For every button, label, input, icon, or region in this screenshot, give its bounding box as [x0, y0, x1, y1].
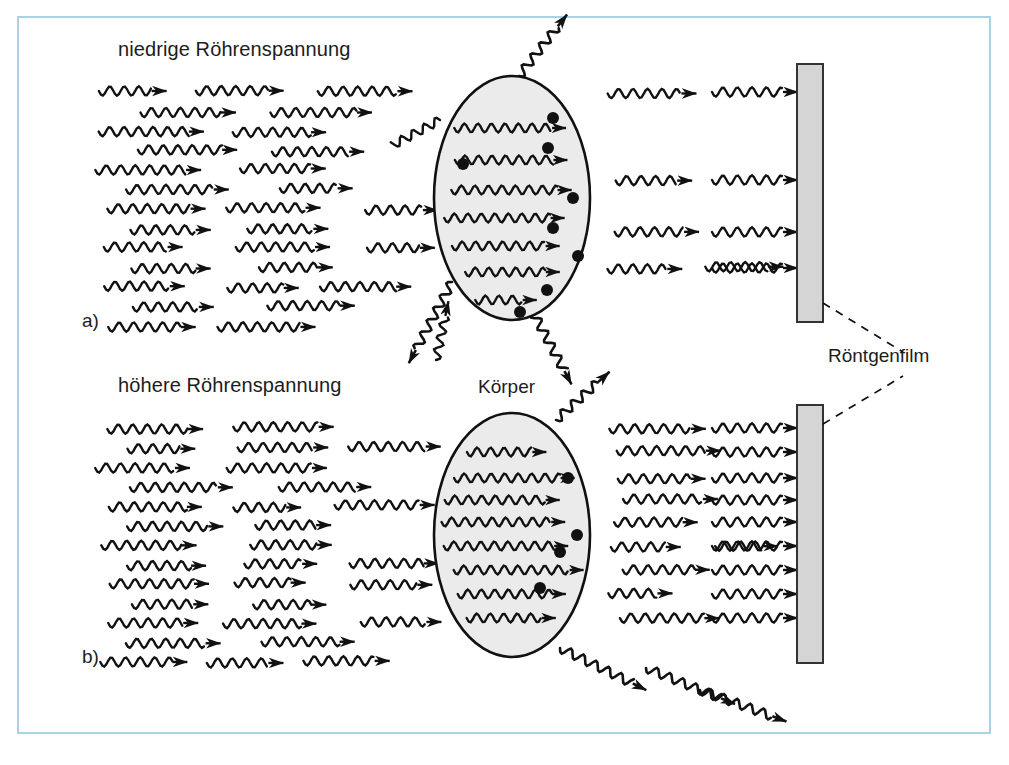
ray-wave	[712, 447, 782, 456]
ray-wave	[712, 495, 782, 504]
absorption-dot	[547, 222, 559, 234]
ray-wave	[617, 446, 705, 455]
ray-wave	[712, 423, 782, 432]
ray-wave	[320, 282, 396, 291]
ray-wave	[616, 176, 676, 185]
ray-wave	[140, 108, 220, 117]
film-label: Röntgenfilm	[828, 345, 929, 367]
panel-a-title: niedrige Röhrenspannung	[118, 38, 350, 61]
ray-wave	[196, 86, 268, 95]
ray-wave	[712, 565, 782, 574]
ray-wave	[233, 422, 317, 431]
ray-wave	[608, 89, 680, 98]
ray-wave	[712, 227, 782, 236]
ray-wave	[104, 242, 166, 251]
ray-wave	[272, 147, 348, 156]
ray-wave	[712, 517, 782, 526]
absorption-dot	[457, 158, 469, 170]
absorption-dot	[562, 472, 574, 484]
ray-wave	[99, 86, 151, 95]
ray-wave	[132, 600, 192, 609]
ray-wave	[95, 463, 173, 472]
ray-wave	[126, 639, 204, 648]
ray-wave	[130, 225, 194, 234]
ray-wave	[133, 302, 197, 311]
ray-arrowhead	[772, 716, 786, 721]
panel-b-marker: b)	[82, 646, 99, 668]
panel-b-title: höhere Röhrenspannung	[118, 374, 341, 397]
xray-film-panel-a	[797, 64, 823, 322]
absorption-dot	[541, 284, 553, 296]
ray-arrowhead	[598, 372, 609, 382]
body-ellipse-panel-a	[434, 76, 590, 320]
ray-wave	[130, 483, 216, 492]
ray-wave	[618, 474, 690, 483]
ray-wave	[560, 648, 634, 684]
ray-wave	[240, 164, 310, 173]
ray-wave	[712, 473, 782, 482]
ray-wave	[623, 494, 701, 503]
ray-wave	[104, 282, 168, 291]
ray-wave	[350, 559, 424, 568]
ray-wave	[236, 242, 314, 251]
ray-arrowhead	[558, 15, 567, 27]
ray-wave	[253, 600, 311, 609]
ray-wave	[267, 301, 339, 310]
ray-wave	[127, 522, 207, 531]
ray-wave	[367, 243, 419, 252]
ray-wave	[280, 184, 336, 193]
ray-wave	[108, 618, 182, 627]
absorption-dot	[567, 192, 579, 204]
ray-wave	[127, 444, 179, 453]
ray-wave	[261, 637, 339, 646]
ray-wave	[223, 619, 301, 628]
ray-wave	[623, 565, 695, 574]
ray-wave	[244, 559, 300, 568]
ray-wave	[609, 424, 689, 433]
ray-wave	[255, 521, 315, 530]
ray-wave	[712, 589, 782, 598]
ray-wave	[270, 108, 356, 117]
absorption-dot	[542, 142, 554, 154]
ray-wave	[107, 424, 187, 433]
ray-wave	[250, 540, 316, 549]
film-callout-leader-b	[823, 376, 903, 424]
ray-wave	[247, 224, 311, 233]
ray-wave	[361, 617, 425, 626]
ray-wave	[391, 118, 440, 147]
ray-wave	[217, 322, 299, 331]
ray-wave	[614, 518, 682, 527]
ray-wave	[318, 87, 396, 96]
ray-wave	[365, 205, 421, 214]
body-label: Körper	[478, 376, 535, 398]
ray-wave	[138, 145, 222, 154]
ray-wave	[233, 503, 285, 512]
ray-layer	[95, 15, 798, 722]
ray-wave	[107, 204, 189, 213]
absorption-dot	[514, 306, 526, 318]
ray-wave	[100, 657, 172, 666]
ray-wave	[131, 264, 195, 273]
absorption-dot	[571, 529, 583, 541]
ray-wave	[335, 500, 419, 509]
absorption-dot	[554, 546, 566, 558]
ray-wave	[348, 442, 424, 451]
absorption-dot	[534, 582, 546, 594]
panel-a-marker: a)	[82, 310, 99, 332]
ray-wave	[259, 263, 317, 272]
ray-wave	[108, 322, 180, 331]
ray-wave	[110, 579, 194, 588]
ray-wave	[238, 443, 312, 452]
xray-film-panel-b	[797, 405, 823, 663]
ray-wave	[620, 614, 704, 623]
ray-wave	[226, 203, 304, 212]
ray-wave	[233, 128, 311, 137]
ray-wave	[279, 482, 355, 491]
ray-wave	[303, 656, 373, 665]
ray-wave	[531, 312, 568, 368]
ray-wave	[712, 613, 782, 622]
ray-wave	[227, 283, 283, 292]
absorption-dot	[572, 250, 584, 262]
ray-wave	[101, 541, 181, 550]
ray-wave	[712, 87, 782, 96]
